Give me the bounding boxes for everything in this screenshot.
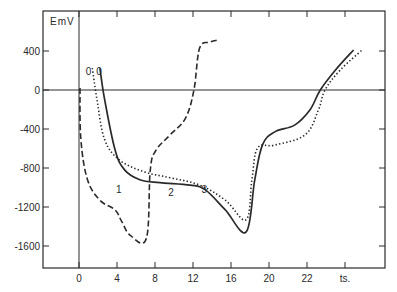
plot-border — [43, 11, 385, 268]
y-tick-label: -1600 — [14, 241, 40, 252]
x-tick-label: 4 — [114, 273, 120, 284]
curve-label: 0 — [86, 66, 92, 77]
x-tick-label: 20 — [263, 273, 275, 284]
x-tick-label: ts. — [340, 273, 351, 284]
curve-label: 3 — [202, 184, 208, 195]
y-tick-label: -800 — [20, 163, 40, 174]
reference-lines — [43, 11, 385, 268]
curve-annotations: 00123 — [86, 66, 208, 199]
series-2-line — [100, 50, 354, 233]
x-tick-label: 8 — [152, 273, 158, 284]
y-tick-label: 0 — [34, 85, 40, 96]
curve-label: 0 — [96, 66, 102, 77]
plot-frame — [43, 11, 385, 268]
curve-label: 2 — [168, 187, 174, 198]
y-tick-label: -1200 — [14, 202, 40, 213]
x-tick-label: 16 — [225, 273, 237, 284]
x-axis-ticks: 04812162022ts. — [76, 11, 350, 284]
chart: 04812162022ts. 4000-400-800-1200-1600 00… — [0, 0, 397, 292]
y-tick-label: 400 — [23, 46, 40, 57]
y-tick-label: -400 — [20, 124, 40, 135]
curve-label: 1 — [116, 184, 122, 195]
x-tick-label: 0 — [76, 273, 82, 284]
data-series — [80, 40, 362, 243]
x-tick-label: 22 — [301, 273, 313, 284]
x-tick-label: 12 — [187, 273, 199, 284]
series-3-line — [92, 50, 362, 220]
y-axis-unit-label: EmV — [50, 16, 75, 27]
